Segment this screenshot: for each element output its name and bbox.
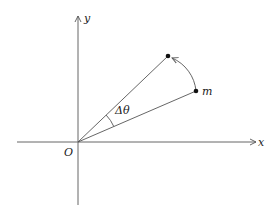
diagram-canvas: y x O m Δθ: [0, 0, 268, 219]
x-axis-label: x: [258, 136, 265, 149]
origin-label: O: [64, 146, 73, 159]
angle-arc: [106, 115, 114, 126]
radius-line-initial: [78, 91, 196, 142]
point-initial: [194, 89, 199, 94]
radius-line-final: [78, 56, 168, 142]
motion-arc: [172, 58, 196, 91]
angle-label: Δθ: [114, 104, 130, 117]
point-final: [166, 54, 171, 59]
y-axis-label: y: [83, 12, 91, 25]
point-m-label: m: [202, 85, 212, 98]
